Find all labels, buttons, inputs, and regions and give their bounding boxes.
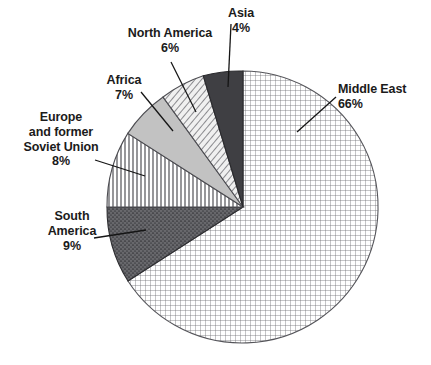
slice-label-south-america: South America 9% [25,209,119,253]
slice-label-north-america: North America 6% [110,26,230,56]
slice-label-europe: Europe and former Soviet Union 8% [4,110,118,169]
slice-label-middle-east: Middle East 66% [338,82,406,112]
slice-label-africa: Africa 7% [89,73,159,103]
pie-chart-figure: Middle East 66% Asia 4% North America 6%… [0,0,431,365]
